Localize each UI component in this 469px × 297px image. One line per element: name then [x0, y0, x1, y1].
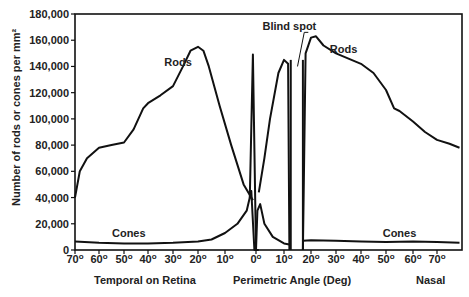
- chart-annotation: Cones: [383, 227, 417, 239]
- plot-area: RodsRodsConesConesBlind spot: [75, 20, 460, 250]
- x-tick-label: 30o: [327, 252, 344, 265]
- x-tick-label: 10o: [275, 252, 292, 265]
- chart-annotation: Rods: [330, 43, 358, 55]
- x-tick-label: 0o: [250, 252, 261, 265]
- x-region-label-temporal: Temporal on Retina: [94, 274, 197, 286]
- x-tick-label: 50o: [115, 252, 132, 265]
- y-tick-label: 40,000: [35, 192, 69, 204]
- y-tick-label: 120,000: [29, 87, 69, 99]
- y-tick-label: 180,000: [29, 8, 69, 20]
- y-tick-label: 160,000: [29, 34, 69, 46]
- series-line: [303, 240, 460, 243]
- y-tick-label: 140,000: [29, 60, 69, 72]
- y-tick-label: 80,000: [35, 139, 69, 151]
- x-tick-label: 60o: [90, 252, 107, 265]
- x-tick-label: 30o: [164, 252, 181, 265]
- rods-cones-density-chart: RodsRodsConesConesBlind spot 020,00040,0…: [0, 0, 469, 297]
- y-tick-label: 60,000: [35, 165, 69, 177]
- chart-annotation: Blind spot: [263, 20, 317, 32]
- y-tick-label: 100,000: [29, 113, 69, 125]
- y-tick-label: 20,000: [35, 218, 69, 230]
- x-tick-label: 60o: [404, 252, 421, 265]
- x-tick-label: 20o: [302, 252, 319, 265]
- y-axis-label: Number of rods or cones per mm²: [10, 28, 22, 206]
- x-tick-label: 10o: [216, 252, 233, 265]
- x-tick-label: 40o: [139, 252, 156, 265]
- x-tick-label: 20o: [189, 252, 206, 265]
- x-tick-label: 40o: [352, 252, 369, 265]
- chart-annotation: Rods: [164, 56, 192, 68]
- series-line: [75, 47, 253, 200]
- x-tick-label: 70o: [428, 252, 445, 265]
- x-axis-label: Perimetric Angle (Deg): [233, 274, 352, 286]
- chart-annotation: Cones: [112, 227, 146, 239]
- series-line: [303, 36, 460, 250]
- x-tick-label: 50o: [377, 252, 394, 265]
- x-tick-label: 70o: [66, 252, 83, 265]
- series-line: [75, 191, 291, 250]
- x-region-label-nasal: Nasal: [416, 274, 445, 286]
